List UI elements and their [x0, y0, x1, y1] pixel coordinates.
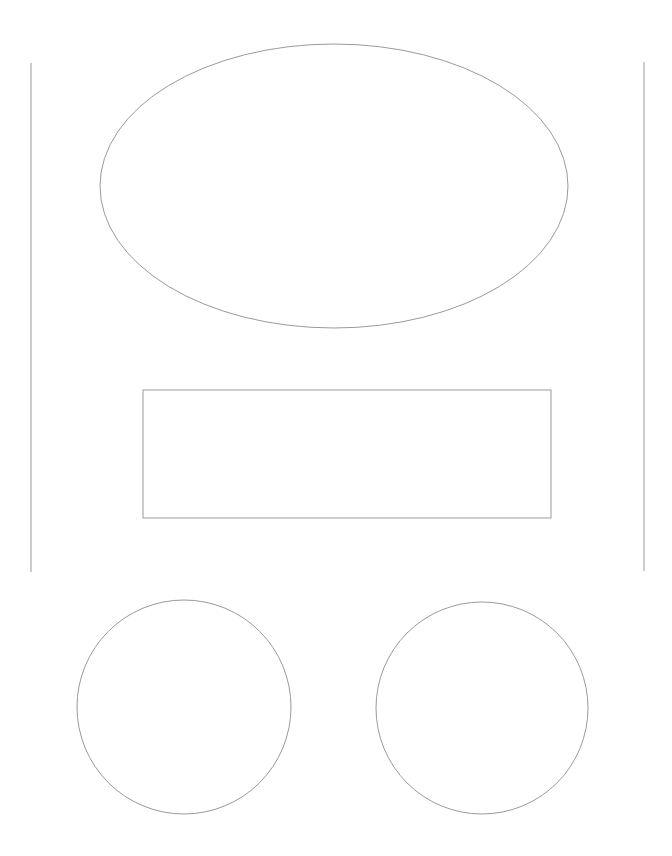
top-ellipse	[100, 44, 568, 328]
diagram-canvas	[0, 0, 672, 856]
middle-rectangle	[143, 390, 551, 518]
bottom-right-circle	[376, 602, 588, 814]
bottom-left-circle	[77, 600, 291, 814]
